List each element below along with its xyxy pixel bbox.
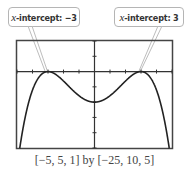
graph-window (0, 0, 189, 174)
window-caption: [−5, 5, 1] by [−25, 10, 5] (0, 153, 189, 168)
callout-pointer-left (28, 26, 47, 71)
callout-pointer-right (139, 26, 162, 71)
